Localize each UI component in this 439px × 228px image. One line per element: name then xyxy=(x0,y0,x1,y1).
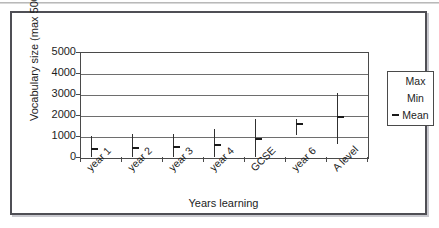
legend-label-mean: Mean xyxy=(402,110,428,120)
legend-label-min: Min xyxy=(407,93,424,103)
x-tick-mark-5 xyxy=(285,157,286,162)
legend-item-max[interactable]: Max xyxy=(388,72,433,89)
range-line-year-1 xyxy=(91,136,92,157)
chart-figure-frame: Vocabulary size (max 5000) 0100020003000… xyxy=(10,11,427,215)
y-tick-mark-2000 xyxy=(76,115,80,116)
gridline-3000 xyxy=(81,95,368,96)
top-divider-rule-shadow xyxy=(0,3,439,4)
x-tick-mark-4 xyxy=(244,157,245,162)
x-tick-mark-7 xyxy=(367,157,368,162)
legend-label-max: Max xyxy=(406,76,426,86)
y-tick-label-4000: 4000 xyxy=(34,67,76,78)
y-tick-mark-1000 xyxy=(76,136,80,137)
mean-marker-year-1 xyxy=(91,148,98,150)
mean-marker-a-level xyxy=(337,116,344,118)
chart-legend: MaxMinMean xyxy=(387,71,434,126)
gridline-4000 xyxy=(81,74,368,75)
y-axis-tick-labels: 010002000300040005000 xyxy=(30,52,76,157)
y-tick-mark-5000 xyxy=(76,52,80,53)
range-line-year-4 xyxy=(214,129,215,157)
y-tick-label-0: 0 xyxy=(34,151,76,162)
mean-marker-year-3 xyxy=(173,146,180,148)
mean-marker-gcse xyxy=(255,138,262,140)
legend-dash-marker-icon xyxy=(392,114,399,116)
mean-marker-year-6 xyxy=(296,123,303,125)
mean-marker-year-2 xyxy=(132,147,139,149)
x-tick-mark-0 xyxy=(80,157,81,162)
y-tick-mark-4000 xyxy=(76,73,80,74)
y-tick-label-2000: 2000 xyxy=(34,109,76,120)
y-tick-label-1000: 1000 xyxy=(34,130,76,141)
range-line-year-6 xyxy=(296,119,297,135)
x-axis-title: Years learning xyxy=(80,197,367,209)
plot-area xyxy=(80,52,369,159)
legend-blank-marker-icon xyxy=(396,80,403,82)
x-tick-mark-1 xyxy=(121,157,122,162)
legend-item-mean[interactable]: Mean xyxy=(388,106,433,123)
gridline-2000 xyxy=(81,116,368,117)
legend-item-min[interactable]: Min xyxy=(388,89,433,106)
y-tick-label-5000: 5000 xyxy=(34,46,76,57)
gridline-1000 xyxy=(81,137,368,138)
range-line-year-2 xyxy=(132,134,133,157)
x-tick-mark-3 xyxy=(203,157,204,162)
y-tick-mark-3000 xyxy=(76,94,80,95)
y-tick-label-3000: 3000 xyxy=(34,88,76,99)
x-tick-mark-2 xyxy=(162,157,163,162)
range-line-a-level xyxy=(337,93,338,144)
mean-marker-year-4 xyxy=(214,144,221,146)
x-tick-mark-6 xyxy=(326,157,327,162)
legend-blank-marker-icon xyxy=(397,97,404,99)
